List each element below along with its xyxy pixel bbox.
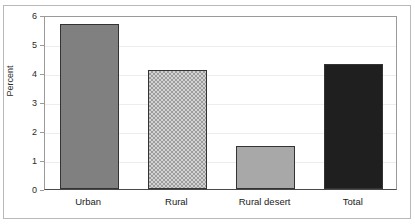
bar bbox=[236, 146, 295, 190]
y-axis-tick-mark bbox=[40, 190, 44, 191]
y-axis-tick-label: 2 bbox=[11, 128, 37, 137]
x-axis-tick-label: Urban bbox=[44, 196, 132, 207]
y-axis-tick-label: 6 bbox=[11, 12, 37, 21]
y-axis-tick-label: 5 bbox=[11, 41, 37, 50]
x-axis-tick-label: Rural desert bbox=[221, 196, 309, 207]
bar bbox=[60, 24, 119, 189]
x-axis-tick-label: Total bbox=[309, 196, 397, 207]
y-axis-tick-label: 4 bbox=[11, 70, 37, 79]
plot-area bbox=[44, 16, 397, 190]
y-axis-title: Percent bbox=[5, 41, 15, 121]
chart-title-cutoff bbox=[0, 0, 415, 1]
y-axis-tick-label: 1 bbox=[11, 157, 37, 166]
bar bbox=[324, 64, 383, 189]
x-axis-tick-label: Rural bbox=[132, 196, 220, 207]
bar-chart: Percent 0123456 UrbanRuralRural desertTo… bbox=[0, 0, 415, 224]
bar bbox=[148, 70, 207, 189]
y-axis-tick-label: 0 bbox=[11, 186, 37, 195]
y-axis-tick-label: 3 bbox=[11, 99, 37, 108]
